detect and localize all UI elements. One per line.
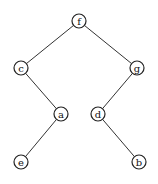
- node-d: d: [91, 107, 105, 121]
- node-label: d: [95, 109, 102, 120]
- node-b: b: [132, 155, 146, 169]
- node-a: a: [54, 107, 68, 121]
- tree-diagram: fcgadeb: [0, 0, 158, 184]
- node-label: b: [136, 157, 142, 168]
- edge-a-e: [25, 119, 56, 156]
- node-label: e: [18, 157, 24, 168]
- node-e: e: [14, 155, 28, 169]
- edge-d-b: [103, 119, 135, 156]
- node-c: c: [14, 61, 28, 75]
- node-f: f: [72, 14, 86, 28]
- node-label: a: [58, 109, 64, 120]
- edge-f-g: [84, 25, 131, 63]
- node-label: g: [134, 63, 141, 74]
- edge-c-a: [26, 73, 57, 108]
- tree-edges: [25, 25, 134, 156]
- tree-nodes: fcgadeb: [14, 14, 146, 169]
- node-label: c: [18, 63, 24, 74]
- node-g: g: [130, 61, 144, 75]
- edge-g-d: [103, 73, 133, 108]
- edge-f-c: [26, 25, 73, 63]
